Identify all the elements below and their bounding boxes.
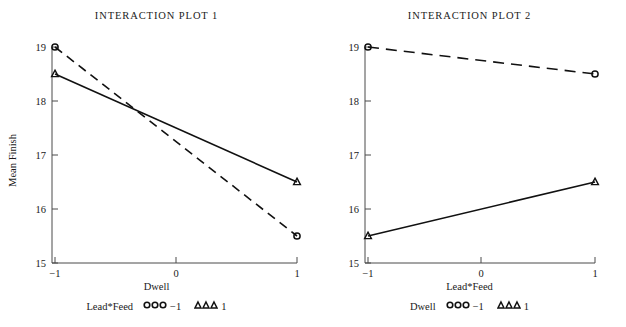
interaction-plots-figure: INTERACTION PLOT 1 Mean Finish 19 18 17 … <box>0 0 626 327</box>
panel-2-x-ticks <box>368 257 595 263</box>
panel-2-ytick-18: 18 <box>349 96 360 107</box>
panel-2-series-minus1-line <box>368 47 595 74</box>
panel-2-legend-label-minus1: −1 <box>473 301 484 312</box>
panel-2-series-1-point <box>592 178 599 184</box>
panel-2-xtick-minus1: −1 <box>362 268 373 279</box>
triangle-marker-icon <box>497 300 521 313</box>
panel-1-series-1-point <box>52 70 59 76</box>
panel-interaction-plot-2: INTERACTION PLOT 2 Mean Finish 19 18 17 … <box>313 0 626 327</box>
panel-2-legend-entry-1: 1 <box>497 300 529 313</box>
panel-1-xtick-1: 1 <box>294 268 299 279</box>
circle-marker-icon <box>446 300 470 313</box>
panel-1-xtick-minus1: −1 <box>49 268 60 279</box>
panel-1-series-minus1-line <box>55 47 297 236</box>
panel-1-legend: Lead*Feed −1 <box>0 300 313 313</box>
panel-2-xtick-1: 1 <box>592 268 597 279</box>
panel-1-xtick-0: 0 <box>173 268 178 279</box>
panel-2-ytick-15: 15 <box>349 258 360 269</box>
panel-2-plot-area: 19 18 17 16 15 −1 0 1 <box>313 0 626 327</box>
panel-2-legend: Dwell −1 <box>313 300 626 313</box>
panel-1-ytick-17: 17 <box>36 150 47 161</box>
panel-2-ytick-19: 19 <box>349 42 360 53</box>
panel-1-plot-area: 19 18 17 16 15 −1 0 1 <box>0 0 313 327</box>
panel-2-y-ticks <box>365 47 371 263</box>
panel-2-x-axis-label: Lead*Feed <box>313 281 626 292</box>
panel-1-x-axis-label: Dwell <box>0 281 313 292</box>
panel-1-ytick-16: 16 <box>36 204 47 215</box>
panel-1-ytick-19: 19 <box>36 42 47 53</box>
panel-2-ytick-16: 16 <box>349 204 360 215</box>
panel-1-ytick-15: 15 <box>36 258 47 269</box>
panel-2-ytick-17: 17 <box>349 150 360 161</box>
panel-interaction-plot-1: INTERACTION PLOT 1 Mean Finish 19 18 17 … <box>0 0 313 327</box>
panel-1-ytick-18: 18 <box>36 96 47 107</box>
panel-2-legend-entry-minus1: −1 <box>446 300 484 313</box>
panel-1-series-1-line <box>55 74 297 182</box>
panel-1-y-ticks <box>52 47 58 263</box>
panel-2-legend-title: Dwell <box>410 301 436 312</box>
circle-marker-icon <box>143 300 167 313</box>
panel-1-legend-label-1: 1 <box>221 301 226 312</box>
triangle-marker-icon <box>194 300 218 313</box>
panel-1-legend-entry-1: 1 <box>194 300 226 313</box>
panel-1-legend-entry-minus1: −1 <box>143 300 181 313</box>
panel-2-legend-label-1: 1 <box>524 301 529 312</box>
panel-2-xtick-0: 0 <box>478 268 483 279</box>
panel-1-legend-label-minus1: −1 <box>170 301 181 312</box>
panel-1-x-ticks <box>55 257 297 263</box>
panel-2-series-1-line <box>368 182 595 236</box>
panel-1-legend-title: Lead*Feed <box>86 301 133 312</box>
